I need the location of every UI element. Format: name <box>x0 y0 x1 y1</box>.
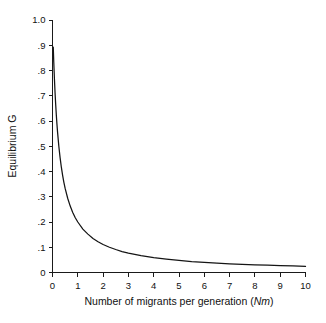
figure-container: 0.1.2.3.4.5.6.7.8.91.0 012345678910 Equi… <box>0 0 326 323</box>
x-tick-label: 0 <box>50 280 55 291</box>
x-tick-label: 2 <box>100 280 105 291</box>
x-axis-tick-labels: 012345678910 <box>50 280 311 291</box>
x-axis-title: Number of migrants per generation (Nm) <box>84 295 273 307</box>
y-tick-label: .7 <box>38 90 46 101</box>
x-tick-label: 1 <box>75 280 80 291</box>
x-tick-label: 7 <box>227 280 232 291</box>
y-tick-label: .8 <box>38 65 46 76</box>
y-tick-label: 1.0 <box>32 14 45 25</box>
y-tick-label: .1 <box>38 242 46 253</box>
x-tick-label: 6 <box>202 280 207 291</box>
x-tick-label: 9 <box>278 280 283 291</box>
x-tick-label: 3 <box>126 280 131 291</box>
x-tick-label: 8 <box>252 280 257 291</box>
x-tick-label: 4 <box>151 280 156 291</box>
y-tick-label: .6 <box>38 115 46 126</box>
x-axis-tick-marks <box>53 273 306 277</box>
y-axis-title: Equilibrium G <box>6 114 18 177</box>
x-tick-label: 5 <box>176 280 181 291</box>
chart-plot: 0.1.2.3.4.5.6.7.8.91.0 012345678910 Equi… <box>0 0 326 323</box>
y-axis-tick-marks <box>49 20 53 273</box>
y-tick-label: .2 <box>38 216 46 227</box>
equilibrium-g-curve <box>53 47 305 266</box>
y-tick-label: .4 <box>38 166 46 177</box>
y-tick-label: .9 <box>38 40 46 51</box>
y-axis-tick-labels: 0.1.2.3.4.5.6.7.8.91.0 <box>32 14 45 278</box>
y-tick-label: .3 <box>38 191 46 202</box>
y-tick-label: 0 <box>40 267 45 278</box>
x-tick-label: 10 <box>300 280 311 291</box>
y-tick-label: .5 <box>38 141 46 152</box>
